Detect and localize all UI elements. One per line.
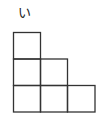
cell [68, 86, 96, 113]
cell [41, 59, 68, 86]
cell [41, 86, 68, 113]
cell [14, 86, 41, 113]
cell [14, 59, 41, 86]
staircase-grid [0, 0, 103, 119]
cell [14, 33, 41, 60]
